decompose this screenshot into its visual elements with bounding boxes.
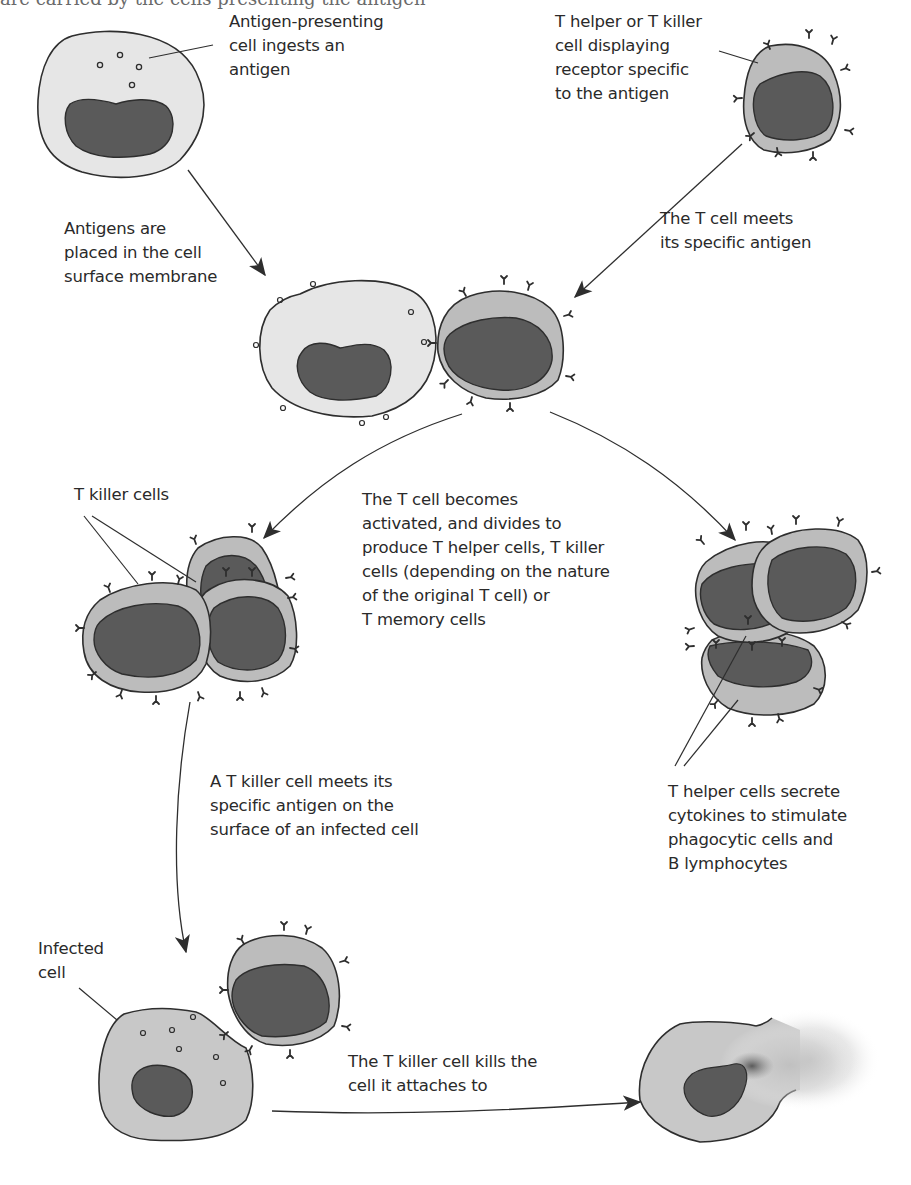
killer-cells-cluster bbox=[76, 516, 298, 704]
killer-leader-line-1 bbox=[84, 516, 138, 584]
tcell-cell bbox=[719, 30, 853, 160]
label-infected-cell: Infected cell bbox=[38, 937, 104, 985]
apc-cell bbox=[38, 31, 213, 177]
attached-killer-cell bbox=[220, 922, 350, 1058]
infected-cell bbox=[79, 988, 253, 1141]
label-tcell-meets: The T cell meets its specific antigen bbox=[660, 207, 811, 255]
helper-cells-cluster bbox=[675, 516, 880, 766]
label-killer-kills: The T killer cell kills the cell it atta… bbox=[348, 1050, 537, 1098]
arrow-to-infected-contact bbox=[176, 702, 190, 952]
tcell-leader-line bbox=[719, 51, 758, 63]
arrow-to-lysed-cell bbox=[272, 1102, 640, 1113]
t-cell-activation-diagram: are carried by the cells presenting the … bbox=[0, 0, 911, 1185]
lysed-cell bbox=[639, 1008, 880, 1142]
helper-leader-line-2 bbox=[684, 700, 738, 766]
presentation-tcell bbox=[428, 276, 574, 411]
label-tcell-activated: The T cell becomes activated, and divide… bbox=[362, 488, 610, 632]
label-apc-ingests: Antigen-presenting cell ingests an antig… bbox=[229, 10, 383, 82]
label-tcell-receptor: T helper or T killer cell displaying rec… bbox=[555, 10, 702, 106]
presentation-apc bbox=[254, 281, 436, 426]
label-helper-secrete: T helper cells secrete cytokines to stim… bbox=[668, 780, 847, 876]
label-killer-cells: T killer cells bbox=[74, 483, 169, 507]
label-killer-meets-antigen: A T killer cell meets its specific antig… bbox=[210, 770, 419, 842]
killer-leader-line-2 bbox=[92, 516, 196, 582]
label-antigens-placed: Antigens are placed in the cell surface … bbox=[64, 217, 217, 289]
infected-leader-line bbox=[79, 988, 117, 1020]
